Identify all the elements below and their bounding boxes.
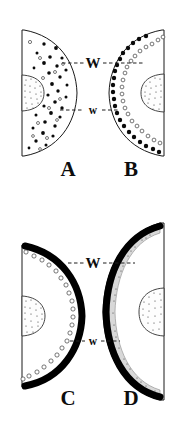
panel-a: A (22, 30, 77, 181)
panel-c-letter: C (60, 386, 75, 410)
panel-b: B (109, 30, 165, 181)
figure-canvas: A (0, 0, 186, 428)
label-top-W: W (86, 55, 101, 71)
panel-b-letter: B (124, 157, 138, 181)
figure-root: A (0, 0, 186, 428)
panel-c: C (21, 245, 82, 410)
panel-d-letter: D (123, 386, 138, 410)
label-bottom-w: w (89, 335, 98, 347)
label-top-w: w (89, 104, 98, 116)
label-bottom-W: W (86, 255, 101, 271)
panel-d: D (103, 223, 164, 410)
panel-a-letter: A (60, 157, 76, 181)
